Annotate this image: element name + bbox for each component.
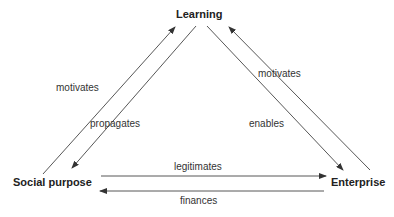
- node-enterprise: Enterprise: [331, 176, 385, 188]
- label-motivates-right: motivates: [258, 68, 301, 79]
- edge-enterprise-to-learning: [229, 27, 370, 170]
- diagram-canvas: Learning Social purpose Enterprise motiv…: [0, 0, 394, 217]
- node-learning: Learning: [176, 8, 222, 20]
- label-legitimates: legitimates: [174, 161, 222, 172]
- edge-learning-to-social: [72, 26, 196, 168]
- label-finances: finances: [180, 195, 217, 206]
- node-social-purpose: Social purpose: [13, 176, 92, 188]
- edge-learning-to-enterprise: [207, 26, 343, 170]
- label-enables: enables: [249, 118, 284, 129]
- edge-social-to-learning: [43, 27, 175, 174]
- label-motivates-left: motivates: [56, 82, 99, 93]
- label-propagates: propagates: [90, 118, 140, 129]
